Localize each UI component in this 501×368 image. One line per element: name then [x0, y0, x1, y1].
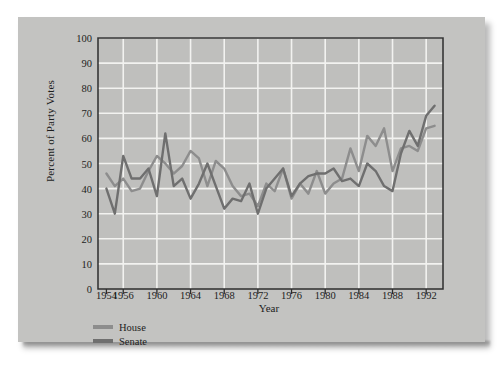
x-tick-label: 1980	[315, 290, 336, 301]
x-tick-label: 1964	[180, 290, 201, 301]
x-tick-label: 1984	[348, 290, 369, 301]
legend-label: Senate	[119, 336, 147, 347]
chart-legend: HouseSenate	[93, 320, 147, 348]
x-tick-label: 1992	[416, 290, 437, 301]
legend-swatch-icon	[93, 339, 113, 343]
screenshot-root: Percent of Party Votes 01020304050607080…	[0, 0, 501, 368]
x-tick-label: 1988	[382, 290, 403, 301]
x-tick-label: 1968	[214, 290, 235, 301]
legend-swatch-icon	[93, 325, 113, 329]
legend-item-house: House	[93, 320, 147, 334]
x-tick-label: 1960	[146, 290, 167, 301]
legend-item-senate: Senate	[93, 334, 147, 348]
x-tick-label: 1972	[247, 290, 268, 301]
x-axis-label: Year	[96, 302, 442, 314]
scanned-page-panel: Percent of Party Votes 01020304050607080…	[18, 17, 485, 342]
chart-figure: Percent of Party Votes 01020304050607080…	[18, 17, 485, 342]
x-tick-label: 1956	[113, 290, 134, 301]
legend-label: House	[119, 322, 146, 333]
x-tick-label: 1976	[281, 290, 302, 301]
